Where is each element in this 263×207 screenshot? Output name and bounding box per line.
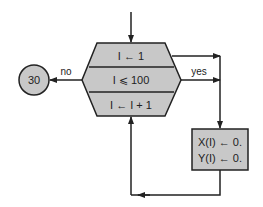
process-line-2: Y(I) ← 0. [198, 152, 242, 164]
return-path [131, 170, 220, 195]
loop-init-text: I ← 1 [118, 50, 144, 62]
no-label: no [60, 66, 72, 77]
yes-label: yes [191, 66, 207, 77]
loop-condition-text: I ⩽ 100 [113, 74, 150, 86]
connector-label: 30 [28, 74, 40, 86]
flowchart-canvas: I ← 1 I ⩽ 100 I ← I + 1 no 30 yes X(I) ←… [0, 0, 263, 207]
process-line-1: X(I) ← 0. [198, 136, 242, 148]
loop-increment-text: I ← I + 1 [110, 99, 152, 111]
